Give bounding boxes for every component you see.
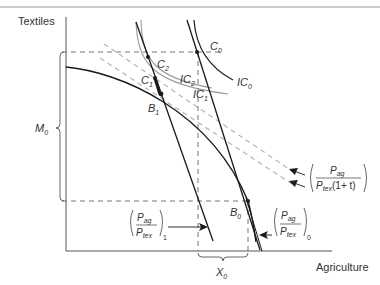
price-ratio-1-label: Pag Ptex 1 bbox=[131, 210, 168, 241]
svg-text:Ptex: Ptex bbox=[280, 226, 297, 238]
label-c2: C2 bbox=[157, 58, 169, 72]
svg-text:Ptex: Ptex bbox=[136, 227, 153, 239]
x0-brace bbox=[198, 253, 248, 261]
trade-diagram: Textiles Agriculture C2 C1 B1 C0 B0 IC2 … bbox=[0, 0, 380, 285]
svg-text:Ptex(1+ t): Ptex(1+ t) bbox=[316, 180, 356, 192]
price-line-0-secondary bbox=[246, 198, 262, 251]
arrow-price-line-0 bbox=[259, 231, 272, 239]
m0-brace bbox=[56, 52, 64, 201]
arrow-tariff-upper bbox=[289, 168, 305, 175]
price-ratio-0-label: Pag Ptex 0 bbox=[275, 208, 312, 241]
label-c0: C0 bbox=[210, 40, 222, 54]
svg-text:Pag: Pag bbox=[137, 212, 152, 225]
label-b1: B1 bbox=[148, 102, 159, 116]
point-c0 bbox=[195, 50, 199, 54]
point-b0 bbox=[246, 199, 250, 203]
arrow-price-line-1 bbox=[168, 223, 208, 231]
svg-text:1: 1 bbox=[163, 234, 167, 241]
svg-text:Pag: Pag bbox=[281, 210, 296, 223]
tariff-price-ratio-label: Pag Ptex(1+ t) bbox=[311, 164, 367, 192]
svg-text:Pag: Pag bbox=[330, 165, 345, 178]
point-c2 bbox=[146, 55, 150, 59]
label-x0: X0 bbox=[215, 266, 227, 280]
point-b1 bbox=[159, 92, 164, 97]
tariff-price-line-lower bbox=[100, 58, 292, 184]
point-c1 bbox=[153, 76, 157, 80]
label-m0: M0 bbox=[35, 122, 48, 136]
label-ic2: IC2 bbox=[180, 73, 195, 87]
svg-text:0: 0 bbox=[307, 234, 311, 241]
label-ic0: IC0 bbox=[237, 76, 252, 90]
indifference-curve-ic2 bbox=[141, 20, 212, 88]
y-axis-label: Textiles bbox=[18, 15, 55, 27]
label-b0: B0 bbox=[230, 206, 241, 220]
x-axis-label: Agriculture bbox=[316, 261, 369, 273]
